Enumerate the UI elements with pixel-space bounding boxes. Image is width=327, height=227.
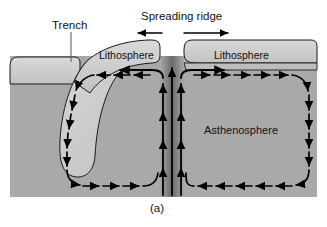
label-spreading-ridge: Spreading ridge (141, 11, 222, 23)
figure-caption: (a) (150, 203, 164, 215)
label-lithosphere-left: Lithosphere (99, 50, 154, 61)
cross-section-diagram (0, 0, 327, 227)
label-lithosphere-right: Lithosphere (214, 50, 269, 61)
left-far-plate (10, 57, 80, 84)
label-trench: Trench (52, 20, 87, 32)
label-asthenosphere: Asthenosphere (204, 125, 278, 136)
plate-tectonics-figure: Trench Spreading ridge Lithosphere Litho… (0, 0, 327, 227)
